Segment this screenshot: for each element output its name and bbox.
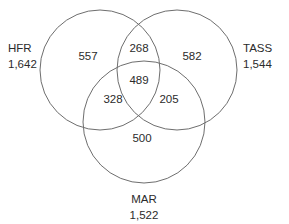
set-label-tass-total: 1,544	[243, 58, 272, 70]
region-count-hfr-mar: 328	[103, 93, 122, 105]
venn-diagram-canvas: 557 268 582 489 328 205 500 HFR 1,642 TA…	[0, 0, 289, 224]
venn-diagram-figure: 557 268 582 489 328 205 500 HFR 1,642 TA…	[0, 0, 289, 224]
region-count-hfr-tass: 268	[129, 42, 148, 54]
region-count-mar-only: 500	[132, 132, 151, 144]
region-count-tass-only: 582	[182, 50, 201, 62]
set-label-mar-name: MAR	[131, 193, 157, 205]
set-label-hfr-name: HFR	[8, 42, 32, 54]
region-count-tass-mar: 205	[159, 93, 178, 105]
region-count-hfr-only: 557	[78, 50, 97, 62]
set-label-tass-name: TASS	[243, 42, 273, 54]
set-label-mar-total: 1,522	[130, 209, 159, 221]
region-count-triple: 489	[129, 74, 148, 86]
set-label-hfr-total: 1,642	[8, 58, 37, 70]
